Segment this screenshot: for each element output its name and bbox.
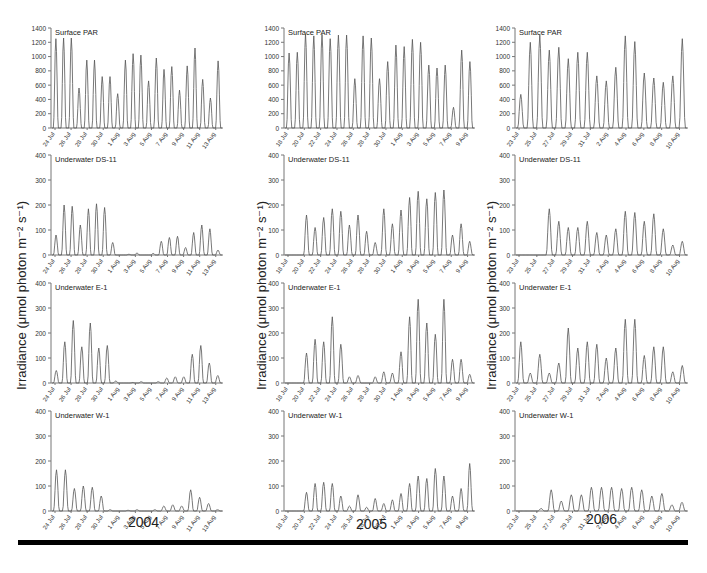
svg-text:9 Aug: 9 Aug <box>171 131 185 147</box>
svg-text:200: 200 <box>499 458 510 465</box>
svg-text:26 Jul: 26 Jul <box>58 514 72 531</box>
svg-text:200: 200 <box>499 110 510 117</box>
svg-text:9 Aug: 9 Aug <box>171 258 185 274</box>
svg-text:300: 300 <box>499 177 510 184</box>
svg-text:400: 400 <box>268 152 279 159</box>
svg-text:8 Aug: 8 Aug <box>649 514 663 530</box>
svg-text:5 Aug: 5 Aug <box>422 514 436 530</box>
svg-text:0: 0 <box>506 125 510 132</box>
svg-text:1 Aug: 1 Aug <box>389 131 403 147</box>
svg-text:3 Aug: 3 Aug <box>122 386 136 402</box>
panel-2005-surface-par: 0200400600800100012001400Surface PAR18 J… <box>265 25 475 148</box>
svg-text:24 Jul: 24 Jul <box>324 258 338 275</box>
svg-text:0: 0 <box>275 380 279 387</box>
svg-text:27 Jul: 27 Jul <box>541 131 555 148</box>
svg-text:9 Aug: 9 Aug <box>455 131 469 147</box>
figure: 0200400600800100012001400Surface PAR24 J… <box>0 0 707 573</box>
svg-text:24 Jul: 24 Jul <box>42 258 56 275</box>
svg-text:26 Jul: 26 Jul <box>340 258 354 275</box>
svg-text:23 Jul: 23 Jul <box>506 258 520 275</box>
svg-text:30 Jul: 30 Jul <box>90 514 104 531</box>
svg-text:6 Aug: 6 Aug <box>631 131 645 147</box>
svg-text:3 Aug: 3 Aug <box>406 514 420 530</box>
svg-text:25 Jul: 25 Jul <box>524 258 538 275</box>
svg-text:Surface PAR: Surface PAR <box>519 28 562 37</box>
svg-text:20 Jul: 20 Jul <box>291 131 305 148</box>
svg-text:1 Aug: 1 Aug <box>389 258 403 274</box>
svg-text:0: 0 <box>42 508 46 515</box>
svg-text:0: 0 <box>275 252 279 259</box>
svg-text:28 Jul: 28 Jul <box>74 131 88 148</box>
svg-text:11 Aug: 11 Aug <box>185 258 200 276</box>
svg-text:6 Aug: 6 Aug <box>631 386 645 402</box>
panel-2004-underwater-e-1: 0100200300400Underwater E-124 Jul26 Jul2… <box>35 280 223 405</box>
svg-text:1400: 1400 <box>496 25 511 32</box>
svg-text:20 Jul: 20 Jul <box>291 514 305 531</box>
svg-text:0: 0 <box>506 252 510 259</box>
svg-text:2 Aug: 2 Aug <box>595 386 609 402</box>
svg-text:600: 600 <box>268 82 279 89</box>
svg-text:6 Aug: 6 Aug <box>631 514 645 530</box>
svg-text:400: 400 <box>499 280 510 287</box>
svg-text:800: 800 <box>35 67 46 74</box>
svg-text:29 Jul: 29 Jul <box>559 386 573 403</box>
svg-text:100: 100 <box>35 227 46 234</box>
bottom-divider-rule <box>18 540 688 545</box>
panel-2006-underwater-ds-11: 0100200300400Underwater DS-1123 Jul25 Ju… <box>499 152 688 277</box>
svg-text:100: 100 <box>499 355 510 362</box>
svg-text:4 Aug: 4 Aug <box>613 386 627 402</box>
svg-text:1 Aug: 1 Aug <box>106 386 120 402</box>
svg-text:3 Aug: 3 Aug <box>122 258 136 274</box>
svg-text:1 Aug: 1 Aug <box>389 386 403 402</box>
svg-text:10 Aug: 10 Aug <box>665 258 681 277</box>
svg-text:18 Jul: 18 Jul <box>275 386 289 403</box>
svg-text:28 Jul: 28 Jul <box>74 258 88 275</box>
svg-text:400: 400 <box>35 280 46 287</box>
svg-text:Underwater E-1: Underwater E-1 <box>519 283 572 292</box>
svg-text:2 Aug: 2 Aug <box>595 131 609 147</box>
svg-text:25 Jul: 25 Jul <box>524 131 538 148</box>
svg-text:26 Jul: 26 Jul <box>340 386 354 403</box>
svg-text:9 Aug: 9 Aug <box>171 514 185 530</box>
svg-text:28 Jul: 28 Jul <box>356 386 370 403</box>
svg-text:200: 200 <box>268 202 279 209</box>
svg-text:23 Jul: 23 Jul <box>506 514 520 531</box>
svg-text:100: 100 <box>268 483 279 490</box>
year-label-2004: 2004 <box>128 514 159 530</box>
svg-text:11 Aug: 11 Aug <box>185 514 200 532</box>
svg-text:13 Aug: 13 Aug <box>201 514 217 533</box>
svg-text:0: 0 <box>275 508 279 515</box>
svg-text:7 Aug: 7 Aug <box>155 258 169 274</box>
svg-text:200: 200 <box>268 110 279 117</box>
svg-text:400: 400 <box>35 152 46 159</box>
svg-text:1200: 1200 <box>265 39 280 46</box>
svg-text:30 Jul: 30 Jul <box>373 258 387 275</box>
svg-text:Surface PAR: Surface PAR <box>55 28 98 37</box>
svg-text:200: 200 <box>35 110 46 117</box>
svg-text:3 Aug: 3 Aug <box>122 131 136 147</box>
svg-text:23 Jul: 23 Jul <box>506 131 520 148</box>
svg-text:100: 100 <box>499 483 510 490</box>
svg-text:400: 400 <box>499 96 510 103</box>
svg-text:27 Jul: 27 Jul <box>541 386 555 403</box>
svg-text:Underwater W-1: Underwater W-1 <box>55 411 109 420</box>
panel-2005-underwater-e-1: 0100200300400Underwater E-118 Jul20 Jul2… <box>268 280 475 403</box>
svg-text:5 Aug: 5 Aug <box>139 131 153 147</box>
svg-text:23 Jul: 23 Jul <box>506 386 520 403</box>
svg-text:28 Jul: 28 Jul <box>74 514 88 531</box>
svg-text:9 Aug: 9 Aug <box>455 258 469 274</box>
svg-text:8 Aug: 8 Aug <box>649 258 663 274</box>
svg-text:100: 100 <box>35 483 46 490</box>
svg-text:600: 600 <box>35 82 46 89</box>
svg-text:13 Aug: 13 Aug <box>201 386 217 405</box>
svg-text:29 Jul: 29 Jul <box>559 514 573 531</box>
svg-text:30 Jul: 30 Jul <box>373 131 387 148</box>
svg-text:27 Jul: 27 Jul <box>541 514 555 531</box>
svg-text:5 Aug: 5 Aug <box>422 258 436 274</box>
svg-text:1 Aug: 1 Aug <box>106 131 120 147</box>
svg-text:22 Jul: 22 Jul <box>307 514 321 531</box>
svg-text:24 Jul: 24 Jul <box>324 131 338 148</box>
panel-2006-surface-par: 0200400600800100012001400Surface PAR23 J… <box>496 25 688 150</box>
svg-text:Underwater DS-11: Underwater DS-11 <box>288 155 350 164</box>
svg-text:1 Aug: 1 Aug <box>389 514 403 530</box>
